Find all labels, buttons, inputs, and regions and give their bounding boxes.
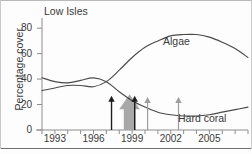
disturbance-arrow-3-head	[144, 97, 150, 103]
x-tick-label: 2005	[192, 134, 226, 144]
x-tick-label: 2002	[154, 134, 188, 144]
x-tick-label: 1993	[38, 134, 72, 144]
data-curves	[42, 34, 248, 116]
chart-figure: Low Isles Percentage cover Algae Hard co…	[0, 0, 252, 154]
y-tick-label: 0	[10, 125, 32, 135]
disturbance-arrows	[108, 96, 181, 130]
y-axis-ticks	[37, 28, 42, 130]
disturbance-arrow-3	[144, 97, 150, 130]
disturbance-arrow-1	[108, 96, 114, 130]
x-tick-label: 1996	[77, 134, 111, 144]
y-tick-label: 60	[10, 49, 32, 59]
disturbance-arrow-1-head	[108, 96, 114, 102]
x-tick-label: 1999	[115, 134, 149, 144]
y-tick-label: 20	[10, 100, 32, 110]
y-tick-label: 80	[10, 23, 32, 33]
plot-area	[0, 0, 252, 154]
series-label-algae: Algae	[163, 36, 190, 47]
chart-title: Low Isles	[44, 6, 88, 17]
disturbance-arrow-4-head	[175, 97, 181, 103]
series-label-hard-coral: Hard coral	[178, 113, 226, 124]
curve-hard-coral	[42, 78, 248, 116]
y-tick-label: 40	[10, 74, 32, 84]
